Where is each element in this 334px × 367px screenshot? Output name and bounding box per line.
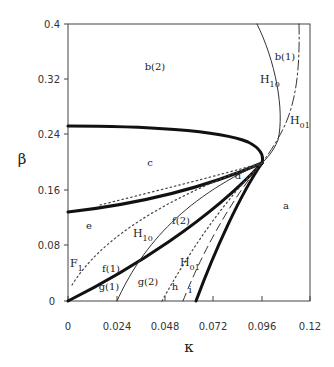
y-tick-0: 0 [49,296,55,307]
curve-label-H01-lower: H01 [180,256,200,272]
region-label-a: a [283,200,289,211]
region-label-g1: g(1) [99,281,120,292]
curve-label-H10-upper: H10 [260,73,280,89]
curve-label-H10-lower: H10 [133,227,153,243]
y-axis-label: β [18,150,27,168]
x-tick-0.12: 0.12 [299,321,321,332]
region-label-b2: b(2) [145,61,166,72]
x-tick-0.096: 0.096 [248,321,277,332]
x-tick-0.024: 0.024 [103,321,132,332]
x-tick-0: 0 [65,321,71,332]
region-label-i: i [188,284,191,295]
y-tick-labels: 0.4 0.32 0.24 0.16 0.08 0 [38,19,60,307]
region-label-e: e [86,220,92,231]
curve-H01-upper [262,24,299,163]
thick-curve-c-lower [68,163,262,212]
x-axis-label: κ [184,338,194,356]
x-tick-0.072: 0.072 [199,321,228,332]
y-axis [64,24,68,301]
y-tick-0.4: 0.4 [44,19,60,30]
curve-label-H01-upper: H01 [290,114,310,130]
thick-curve-fg [68,163,262,301]
x-tick-labels: 0 0.024 0.048 0.072 0.096 0.12 [65,321,321,332]
region-label-c: c [147,157,153,168]
region-label-g2: g(2) [138,276,159,287]
region-label-f1: f(1) [102,263,120,274]
bifurcation-diagram: 0.4 0.32 0.24 0.16 0.08 0 0 0.024 0.048 … [0,0,334,367]
curve-F1 [72,163,262,285]
y-tick-0.24: 0.24 [38,129,60,140]
x-axis [68,296,310,301]
region-label-f2: f(2) [172,215,190,226]
thick-curve-c-upper [68,126,263,163]
curve-label-F1: F1 [70,257,83,273]
y-tick-0.16: 0.16 [38,185,60,196]
region-label-b1: b(1) [275,51,296,62]
y-tick-0.08: 0.08 [38,240,60,251]
region-label-h: h [172,281,179,292]
region-label-d: d [235,170,242,181]
y-tick-0.32: 0.32 [38,74,60,85]
curve-H10-upper [257,24,280,163]
x-tick-0.048: 0.048 [151,321,180,332]
